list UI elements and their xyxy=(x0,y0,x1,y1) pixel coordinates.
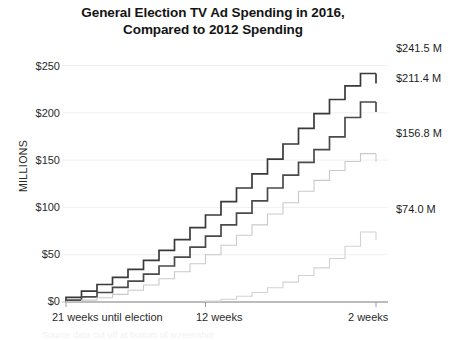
chart-plot-area xyxy=(0,0,466,340)
series-group xyxy=(66,74,376,303)
axes-group xyxy=(66,302,388,307)
chart-page: General Election TV Ad Spending in 2016,… xyxy=(0,0,466,340)
gridlines-group xyxy=(62,65,388,302)
footer-cutoff-text: Source data cut off at bottom of screens… xyxy=(42,330,432,339)
series-line-series-4-lightest xyxy=(206,232,377,302)
